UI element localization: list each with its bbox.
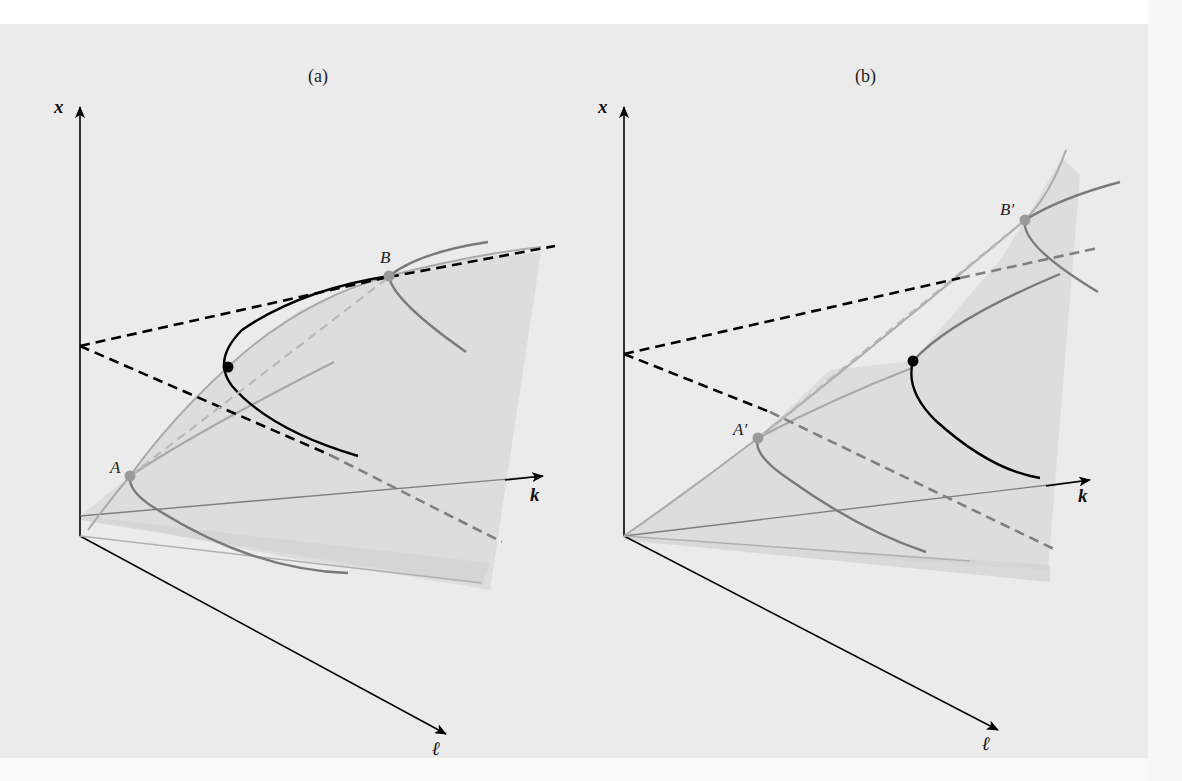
panel-b-lower-dashed-line bbox=[624, 354, 770, 412]
panel-b-point-tangency bbox=[908, 356, 919, 367]
panel-a-point-B bbox=[384, 271, 395, 282]
panel-a-point-tangency bbox=[223, 362, 234, 373]
diagram-canvas bbox=[0, 0, 1182, 781]
panel-a-point-A-label: A bbox=[110, 458, 120, 478]
panel-a-x-axis-label: x bbox=[54, 96, 64, 118]
panel-b-k-axis-label: k bbox=[1078, 485, 1088, 507]
panel-b-point-B-prime bbox=[1020, 215, 1031, 226]
panel-b-point-B-prime-label: B′ bbox=[1000, 200, 1014, 220]
panel-b-point-A-prime-label: A′ bbox=[733, 420, 747, 440]
production-frontier-figure: (a) (b) bbox=[0, 0, 1182, 781]
panel-a-graph bbox=[80, 107, 555, 734]
panel-b-l-axis-label: ℓ bbox=[982, 733, 990, 755]
panel-a-point-A bbox=[125, 471, 136, 482]
panel-b-x-axis-label: x bbox=[598, 96, 608, 118]
panel-a-l-axis-label: ℓ bbox=[432, 738, 440, 760]
panel-a-k-axis-label: k bbox=[530, 484, 540, 506]
panel-a-production-surface bbox=[80, 252, 541, 590]
panel-b-point-A-prime bbox=[753, 433, 764, 444]
panel-a-point-B-label: B bbox=[380, 248, 390, 268]
panel-b-graph bbox=[624, 107, 1120, 730]
